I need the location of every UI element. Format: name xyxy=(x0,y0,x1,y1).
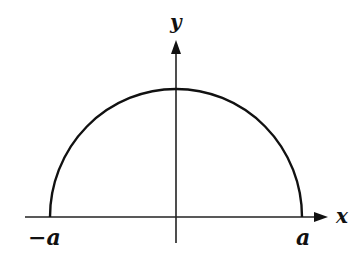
semicircle-diagram xyxy=(0,0,363,260)
y-axis-label: y xyxy=(170,12,182,32)
y-axis-arrow-icon xyxy=(171,40,181,54)
x-axis-arrow-icon xyxy=(314,212,328,222)
left-endpoint-label: −a xyxy=(28,226,61,248)
right-endpoint-label: a xyxy=(296,226,310,248)
x-axis-label: x xyxy=(336,206,348,226)
